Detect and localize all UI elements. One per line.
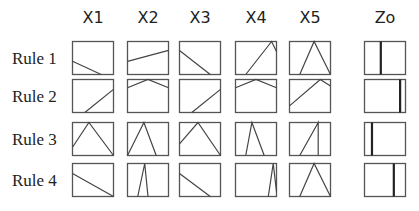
row-label-rule-3: Rule 3 xyxy=(12,130,62,150)
membership-plot xyxy=(72,41,114,75)
output-singleton-plot xyxy=(364,79,406,113)
output-membership-cell xyxy=(364,41,406,75)
membership-plot xyxy=(179,122,221,156)
column-header-x1: X1 xyxy=(71,8,115,27)
membership-function-cell xyxy=(179,41,221,75)
column-header-x2: X2 xyxy=(126,8,170,27)
output-membership-cell xyxy=(364,163,406,197)
membership-plot xyxy=(127,122,169,156)
membership-plot xyxy=(179,41,221,75)
membership-plot xyxy=(127,79,169,113)
membership-function-cell xyxy=(289,122,331,156)
membership-function-cell xyxy=(127,122,169,156)
membership-plot xyxy=(72,122,114,156)
membership-function-cell xyxy=(235,163,277,197)
output-membership-cell xyxy=(364,122,406,156)
column-header-zo: Zo xyxy=(363,8,407,27)
membership-function-cell xyxy=(72,41,114,75)
membership-plot xyxy=(289,41,331,75)
membership-plot xyxy=(289,122,331,156)
membership-plot xyxy=(127,163,169,197)
membership-plot xyxy=(235,79,277,113)
membership-plot xyxy=(127,41,169,75)
output-singleton-plot xyxy=(364,122,406,156)
membership-function-cell xyxy=(235,41,277,75)
membership-plot xyxy=(235,122,277,156)
output-singleton-plot xyxy=(364,41,406,75)
column-header-x5: X5 xyxy=(288,8,332,27)
row-label-rule-1: Rule 1 xyxy=(12,49,62,69)
membership-plot xyxy=(289,163,331,197)
membership-plot xyxy=(72,163,114,197)
membership-plot xyxy=(179,163,221,197)
membership-function-cell xyxy=(72,122,114,156)
membership-plot xyxy=(289,79,331,113)
membership-function-cell xyxy=(235,79,277,113)
membership-function-cell xyxy=(289,79,331,113)
column-header-x3: X3 xyxy=(178,8,222,27)
membership-function-cell xyxy=(179,163,221,197)
membership-function-cell xyxy=(179,122,221,156)
membership-function-cell xyxy=(289,41,331,75)
membership-function-cell xyxy=(235,122,277,156)
membership-plot xyxy=(235,163,277,197)
membership-plot xyxy=(72,79,114,113)
membership-function-cell xyxy=(127,79,169,113)
membership-plot xyxy=(179,79,221,113)
membership-function-cell xyxy=(179,79,221,113)
membership-function-cell xyxy=(127,41,169,75)
output-singleton-plot xyxy=(364,163,406,197)
membership-function-cell xyxy=(72,79,114,113)
column-header-x4: X4 xyxy=(234,8,278,27)
membership-function-cell xyxy=(289,163,331,197)
membership-plot xyxy=(235,41,277,75)
membership-function-cell xyxy=(72,163,114,197)
output-membership-cell xyxy=(364,79,406,113)
row-label-rule-2: Rule 2 xyxy=(12,87,62,107)
membership-function-cell xyxy=(127,163,169,197)
row-label-rule-4: Rule 4 xyxy=(12,171,62,191)
